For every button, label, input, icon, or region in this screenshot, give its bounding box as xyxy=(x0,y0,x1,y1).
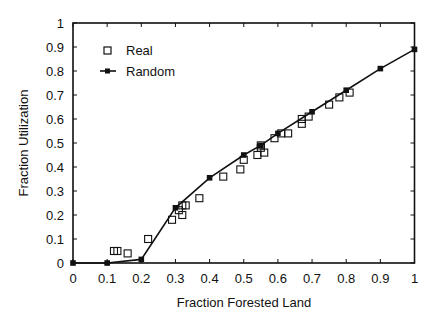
random-data-point xyxy=(275,131,281,137)
real-data-point xyxy=(182,202,189,209)
real-data-point xyxy=(124,250,131,257)
x-tick-label: 0.7 xyxy=(303,271,321,286)
y-tick-label: 0.3 xyxy=(46,184,64,199)
real-data-point xyxy=(114,248,121,255)
y-tick-label: 0.9 xyxy=(46,40,64,55)
x-axis-label: Fraction Forested Land xyxy=(177,295,311,310)
x-tick-label: 0.1 xyxy=(98,271,116,286)
random-data-point xyxy=(309,109,315,115)
random-data-point xyxy=(70,260,76,266)
x-tick-label: 0.5 xyxy=(235,271,253,286)
x-tick-label: 0.4 xyxy=(201,271,219,286)
x-tick-label: 0.6 xyxy=(269,271,287,286)
random-data-point xyxy=(207,175,213,181)
random-data-point xyxy=(412,47,418,53)
y-tick-label: 0.5 xyxy=(46,136,64,151)
legend: Real Random xyxy=(100,43,175,79)
x-tick-label: 0.3 xyxy=(166,271,184,286)
random-data-point xyxy=(173,205,179,211)
x-tick-label: 0.9 xyxy=(371,271,389,286)
y-tick-label: 0.8 xyxy=(46,64,64,79)
legend-random-label: Random xyxy=(126,64,175,79)
random-data-point xyxy=(104,260,110,266)
y-tick-label: 0.7 xyxy=(46,88,64,103)
y-tick-label: 0.2 xyxy=(46,208,64,223)
plot-area: 00.10.20.30.40.50.60.70.80.9100.10.20.30… xyxy=(46,16,418,287)
real-data-point xyxy=(196,195,203,202)
y-tick-label: 1 xyxy=(57,16,64,31)
chart: 00.10.20.30.40.50.60.70.80.9100.10.20.30… xyxy=(0,0,431,324)
plot-frame xyxy=(73,23,415,263)
y-tick-label: 0.1 xyxy=(46,232,64,247)
x-tick-label: 0.8 xyxy=(337,271,355,286)
random-data-point xyxy=(241,152,247,158)
real-data-point xyxy=(145,236,152,243)
real-data-point xyxy=(237,166,244,173)
random-data-point xyxy=(343,87,349,93)
real-data-point xyxy=(285,130,292,137)
real-data-point xyxy=(261,149,268,156)
real-data-point xyxy=(179,212,186,219)
y-tick-label: 0.6 xyxy=(46,112,64,127)
legend-real-label: Real xyxy=(126,43,153,58)
random-data-point xyxy=(378,66,384,72)
x-tick-label: 1 xyxy=(411,271,418,286)
legend-real-marker-icon xyxy=(104,47,111,54)
x-tick-label: 0 xyxy=(69,271,76,286)
legend-random-marker-icon xyxy=(105,69,110,74)
x-tick-label: 0.2 xyxy=(132,271,150,286)
y-tick-label: 0 xyxy=(57,256,64,271)
random-data-point xyxy=(258,143,264,149)
y-axis-label: Fraction Utilization xyxy=(16,90,31,197)
real-data-point xyxy=(220,173,227,180)
real-data-point xyxy=(254,152,261,159)
random-data-point xyxy=(139,257,145,263)
y-tick-label: 0.4 xyxy=(46,160,64,175)
